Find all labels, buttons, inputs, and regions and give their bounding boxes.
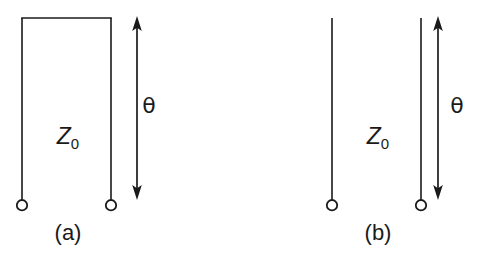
panel-b-left-terminal xyxy=(327,200,337,210)
panel-b-right-terminal xyxy=(416,200,426,210)
panel-a-impedance-subscript: 0 xyxy=(71,135,79,152)
panel-b-group xyxy=(327,16,443,210)
panel-a-right-terminal xyxy=(106,200,116,210)
panel-b-impedance-subscript: 0 xyxy=(381,135,389,152)
panel-a-caption: (a) xyxy=(55,222,82,244)
panel-a-impedance-label: Z0 xyxy=(57,125,79,148)
panel-a-impedance-symbol: Z xyxy=(57,123,71,149)
panel-b-caption: (b) xyxy=(365,222,392,244)
panel-a-group xyxy=(17,16,142,210)
panel-b-length-label: θ xyxy=(450,95,463,117)
panel-b-impedance-label: Z0 xyxy=(367,125,389,148)
figure-canvas: Z0 θ (a) Z0 θ (b) xyxy=(0,0,483,256)
panel-a-length-label: θ xyxy=(142,95,155,117)
panel-a-left-terminal xyxy=(17,200,27,210)
panel-b-impedance-symbol: Z xyxy=(367,123,381,149)
